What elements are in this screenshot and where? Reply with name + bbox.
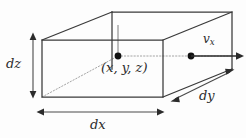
dx-arrow-head-right bbox=[157, 109, 165, 116]
dy-dimension-label: dy bbox=[199, 89, 215, 102]
dx-arrow-head-left bbox=[37, 109, 45, 116]
oblique-edge-bottom-right bbox=[163, 69, 232, 97]
center-point-dot bbox=[115, 53, 122, 60]
fluid-element-figure: dz dx dy vx (x, y, z) bbox=[0, 0, 246, 138]
box-edges-group bbox=[42, 12, 232, 97]
velocity-label: vx bbox=[203, 33, 215, 47]
dz-dimension-label: dz bbox=[6, 57, 21, 70]
dx-dimension-arrow bbox=[37, 109, 165, 116]
dy-arrow-head-upper bbox=[225, 69, 234, 75]
oblique-edge-top-right bbox=[163, 12, 232, 40]
dz-arrow-head-top bbox=[30, 33, 37, 41]
dy-arrow-head-lower bbox=[171, 96, 180, 102]
dz-arrow-head-bottom bbox=[30, 91, 37, 99]
velocity-arrow-head bbox=[236, 52, 244, 60]
oblique-edge-top-left bbox=[42, 12, 112, 40]
velocity-label-subscript: x bbox=[210, 37, 215, 47]
velocity-vector-group bbox=[188, 52, 244, 60]
dx-dimension-label: dx bbox=[90, 118, 106, 131]
center-point-label: (x, y, z) bbox=[101, 61, 147, 74]
velocity-label-base: v bbox=[203, 32, 210, 46]
dz-dimension-arrow bbox=[30, 33, 37, 99]
